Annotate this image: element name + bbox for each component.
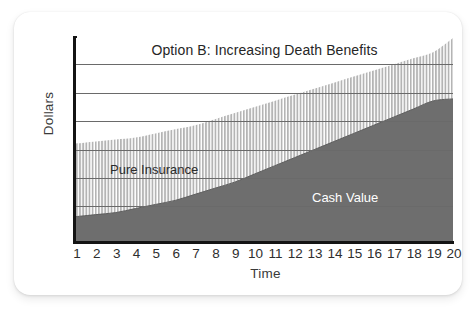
x-tick-5: 5	[153, 246, 161, 261]
x-tick-4: 4	[133, 246, 141, 261]
chart-title: Option B: Increasing Death Benefits	[76, 42, 453, 58]
x-tick-16: 16	[367, 246, 382, 261]
x-tick-12: 12	[288, 246, 303, 261]
x-tick-1: 1	[73, 246, 81, 261]
x-tick-9: 9	[232, 246, 240, 261]
x-tick-15: 15	[347, 246, 362, 261]
x-tick-11: 11	[268, 246, 282, 261]
x-tick-2: 2	[93, 246, 101, 261]
x-tick-13: 13	[308, 246, 323, 261]
figure-root: Dollars Option B: Increasing Death Benef…	[0, 0, 476, 309]
x-tick-8: 8	[212, 246, 220, 261]
gridline-2	[76, 150, 453, 151]
x-tick-7: 7	[192, 246, 200, 261]
plot-area: Option B: Increasing Death Benefits Pure…	[76, 38, 453, 241]
x-axis-line	[73, 241, 454, 245]
stacked-area-series	[76, 38, 453, 241]
x-tick-10: 10	[248, 246, 263, 261]
y-axis-title: Dollars	[41, 66, 56, 162]
series-label-pure-insurance: Pure Insurance	[110, 162, 198, 177]
x-tick-19: 19	[427, 246, 442, 261]
x-axis-ticklabels: 1234567891011121314151617181920	[76, 246, 455, 266]
x-tick-18: 18	[407, 246, 422, 261]
gridline-1	[76, 178, 453, 179]
x-tick-6: 6	[172, 246, 180, 261]
x-tick-3: 3	[113, 246, 121, 261]
gridline-0	[76, 206, 453, 207]
x-tick-14: 14	[327, 246, 342, 261]
x-tick-20: 20	[446, 246, 461, 261]
x-tick-17: 17	[387, 246, 402, 261]
series-label-cash-value: Cash Value	[312, 190, 378, 205]
gridline-3	[76, 121, 453, 122]
x-axis-title: Time	[76, 266, 455, 281]
gridline-4	[76, 93, 453, 94]
gridline-5	[76, 64, 453, 65]
